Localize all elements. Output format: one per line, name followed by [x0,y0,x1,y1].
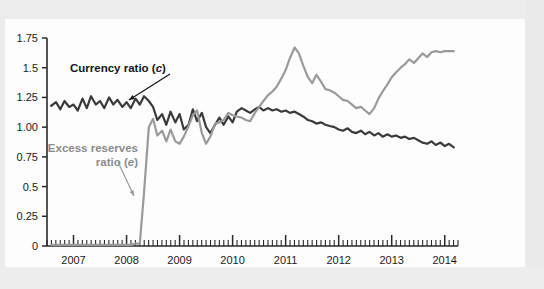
x-axis-tick-label: 2013 [379,254,403,266]
currency-ratio-label: Currency ratio (c) [70,62,166,74]
x-axis-tick-label: 2014 [432,254,456,266]
x-axis-tick-label: 2008 [114,254,138,266]
x-axis: 20072008200920102011201220132014 [47,235,458,266]
line-chart-plot: 00.250.50.751.001.251.51.75 200720082009… [0,0,544,289]
y-axis-tick-label: 0.75 [17,151,38,163]
series-annotations: Currency ratio (c)Excess reservesratio (… [48,62,170,196]
excess-reserves-ratio-label: Excess reservesratio (e) [48,142,138,168]
x-axis-tick-label: 2010 [220,254,244,266]
y-axis-tick-label: 1.75 [17,32,38,44]
y-axis-tick-label: 1.25 [17,91,38,103]
y-axis-tick-label: 1.5 [23,62,38,74]
x-axis-tick-label: 2007 [61,254,85,266]
x-axis-tick-label: 2011 [274,254,298,266]
y-axis-tick-label: 0.25 [17,210,38,222]
y-axis-tick-label: 1.00 [17,121,38,133]
x-axis-tick-label: 2012 [326,254,350,266]
x-axis-tick-label: 2009 [167,254,191,266]
y-axis-tick-label: 0 [32,240,38,252]
chart-figure: 00.250.50.751.001.251.51.75 200720082009… [0,0,544,289]
currency-ratio-arrow [129,74,170,100]
y-axis-tick-label: 0.5 [23,181,38,193]
series-line-currency-ratio [51,96,454,147]
excess-reserves-ratio-arrow-head [130,190,134,196]
y-axis: 00.250.50.751.001.251.51.75 [17,32,47,252]
